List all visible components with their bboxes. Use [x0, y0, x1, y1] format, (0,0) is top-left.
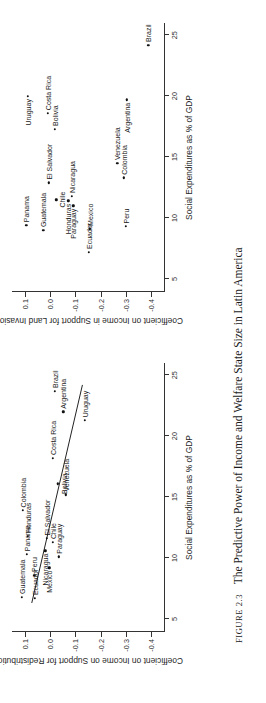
scatter-point-label: Uruguay: [24, 99, 31, 125]
scatter-point-label: Uruguay: [81, 391, 88, 417]
scatter-point: [125, 99, 127, 101]
figure-caption: FIGURE 2.3 The Predictive Power of Incom…: [232, 20, 244, 643]
y-axis-tick-label: -0.4: [147, 299, 156, 331]
x-axis-tick: [164, 374, 169, 375]
x-axis-tick: [164, 496, 169, 497]
x-axis-title-left: Social Expenditures as % of GDP: [184, 363, 194, 632]
plot-area-left: GuatemalaColombiaPanamaHondurasEcuadorPe…: [12, 363, 164, 631]
y-axis-tick-label: 0.0: [46, 639, 55, 671]
x-axis-tick-label: 10: [170, 214, 179, 222]
x-axis-tick: [164, 95, 169, 96]
x-axis-tick-label: 20: [170, 432, 179, 440]
x-axis-tick-label: 10: [170, 554, 179, 562]
chart-panel-right: PanamaUruguayGuatemalaCosta RicaEl Salva…: [8, 17, 218, 347]
chart-panel-left: GuatemalaColombiaPanamaHondurasEcuadorPe…: [8, 357, 218, 687]
scatter-point-label: Brazil: [145, 24, 152, 42]
y-axis-tick-label: -0.2: [96, 299, 105, 331]
scatter-point: [71, 195, 73, 197]
y-axis-tick-label: -0.4: [147, 639, 156, 671]
scatter-point: [125, 225, 127, 227]
scatter-point: [72, 205, 74, 207]
y-axis-tick-label: 0.1: [20, 639, 29, 671]
scatter-point-label: Costa Rica: [50, 421, 57, 455]
x-axis-tick: [164, 34, 169, 35]
x-axis-title-right: Social Expenditures as % of GDP: [184, 23, 194, 292]
scatter-point: [123, 177, 125, 179]
scatter-point-label: Nicaragua: [68, 161, 75, 193]
scatter-point-label: Ecuador: [85, 223, 92, 249]
y-axis-tick: [25, 632, 26, 637]
y-axis-tick-label: -0.1: [71, 639, 80, 671]
y-axis-tick: [126, 292, 127, 297]
x-axis-tick: [164, 618, 169, 619]
y-axis-tick: [50, 632, 51, 637]
x-axis-tick-label: 5: [170, 277, 179, 281]
scatter-point-label: Paraguay: [70, 209, 77, 239]
x-axis-tick-label: 5: [170, 617, 179, 621]
y-axis-tick-label: -0.1: [71, 299, 80, 331]
page-canvas: GuatemalaColombiaPanamaHondurasEcuadorPe…: [0, 0, 266, 703]
scatter-point-label: Venezuela: [62, 459, 69, 492]
x-axis-tick: [164, 217, 169, 218]
x-axis-tick: [164, 557, 169, 558]
y-axis-title-left: Coefficient on Income on Support for Red…: [3, 656, 183, 666]
y-axis-line-right: [12, 291, 164, 292]
y-axis-tick: [25, 292, 26, 297]
y-axis-tick: [50, 292, 51, 297]
y-axis-title-right: Coefficient on Income in Support for Lan…: [3, 316, 183, 326]
x-axis-tick-label: 25: [170, 31, 179, 39]
scatter-point: [27, 95, 29, 97]
scatter-point: [53, 128, 55, 130]
y-axis-tick-label: -0.2: [96, 639, 105, 671]
y-axis-tick: [126, 632, 127, 637]
y-axis-tick-label: -0.3: [122, 639, 131, 671]
y-axis-tick-label: 0.1: [20, 299, 29, 331]
scatter-point-label: Honduras: [24, 503, 31, 533]
scatter-point-label: Argentina: [123, 103, 130, 133]
scatter-point: [88, 251, 90, 253]
scatter-point-label: Guatemala: [18, 560, 25, 594]
y-axis-tick: [101, 632, 102, 637]
x-axis-tick-label: 15: [170, 493, 179, 501]
scatter-point-label: Bolivia: [51, 105, 58, 126]
scatter-point-label: Colombia: [120, 145, 127, 175]
scatter-point: [48, 181, 50, 183]
y-axis-tick: [75, 632, 76, 637]
scatter-point-label: Argentina: [60, 379, 67, 409]
scatter-point-label: Peru: [31, 557, 38, 572]
y-axis-tick-label: 0.0: [46, 299, 55, 331]
scatter-point: [55, 198, 57, 200]
y-axis-tick: [151, 292, 152, 297]
scatter-point: [47, 112, 49, 114]
scatter-point-label: Brazil: [52, 371, 59, 389]
figure-number: FIGURE 2.3: [234, 594, 244, 643]
scatter-point-label: Peru: [123, 209, 130, 224]
figure-caption-text: The Predictive Power of Income and Welfa…: [232, 247, 244, 584]
x-axis-tick: [164, 278, 169, 279]
y-axis-tick: [151, 632, 152, 637]
y-axis-tick: [101, 292, 102, 297]
x-axis-line-left: [164, 363, 165, 632]
scatter-point-label: Paraguay: [55, 524, 62, 554]
x-axis-tick-label: 15: [170, 153, 179, 161]
x-axis-tick: [164, 435, 169, 436]
scatter-point: [67, 200, 69, 202]
y-axis-line-left: [12, 631, 164, 632]
x-axis-tick: [164, 156, 169, 157]
x-axis-line-right: [164, 23, 165, 292]
scatter-point-label: Mexico: [46, 571, 53, 593]
scatter-point-label: Mexico: [87, 204, 94, 226]
y-axis-tick: [75, 292, 76, 297]
plot-area-right: PanamaUruguayGuatemalaCosta RicaEl Salva…: [12, 23, 164, 291]
y-axis-tick-label: -0.3: [122, 299, 131, 331]
figure-page: GuatemalaColombiaPanamaHondurasEcuadorPe…: [0, 0, 266, 703]
scatter-point-label: El Salvador: [45, 144, 52, 180]
x-axis-tick-label: 20: [170, 92, 179, 100]
scatter-point-label: Guatemala: [40, 193, 47, 227]
scatter-point: [42, 229, 44, 231]
scatter-point-label: Ecuador: [32, 569, 39, 595]
scatter-point-label: Panama: [23, 196, 30, 222]
scatter-point: [25, 224, 27, 226]
x-axis-tick-label: 25: [170, 371, 179, 379]
scatter-point: [147, 44, 149, 46]
